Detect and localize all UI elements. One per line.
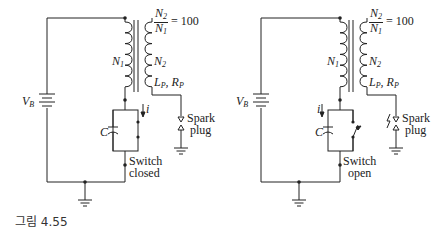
ground-icon — [389, 148, 403, 154]
ground-icon — [292, 200, 306, 206]
figure-caption: 그림 4.55 — [15, 212, 68, 229]
battery-label: VB — [236, 95, 248, 111]
switch-state-label: closed — [129, 167, 160, 179]
spark-plug-icon — [178, 117, 184, 130]
current-label: i — [146, 103, 149, 115]
battery-label: VB — [22, 95, 34, 111]
spark-bolt-icon — [387, 114, 390, 128]
secondary-coil-icon — [145, 22, 152, 87]
turns-ratio-label: N2N1 = 100 — [154, 8, 199, 37]
ground-icon — [78, 200, 92, 206]
primary-turns-label: N1 — [327, 55, 339, 71]
switch-state-label: open — [348, 167, 371, 179]
battery-icon — [253, 94, 269, 106]
capacitor-label: C — [315, 126, 323, 138]
primary-coil-icon — [340, 22, 347, 87]
inductance-resistance-label: LP, RP — [154, 76, 184, 92]
spark-plug-icon — [393, 117, 399, 130]
spark-plug-label-2: plug — [405, 124, 426, 136]
secondary-turns-label: N2 — [369, 55, 381, 71]
current-label: i — [317, 103, 320, 115]
battery-icon — [39, 94, 55, 106]
primary-turns-label: N1 — [112, 55, 124, 71]
spark-plug-label-2: plug — [190, 124, 211, 136]
inductance-resistance-label: LP, RP — [369, 76, 399, 92]
primary-coil-icon — [125, 22, 132, 87]
ground-icon — [174, 148, 188, 154]
circuit-switch-open — [253, 18, 403, 206]
turns-ratio-label: N2N1 = 100 — [369, 8, 414, 37]
capacitor-label: C — [100, 126, 108, 138]
circuit-switch-closed — [39, 18, 188, 206]
secondary-coil-icon — [360, 22, 367, 87]
secondary-turns-label: N2 — [154, 55, 166, 71]
